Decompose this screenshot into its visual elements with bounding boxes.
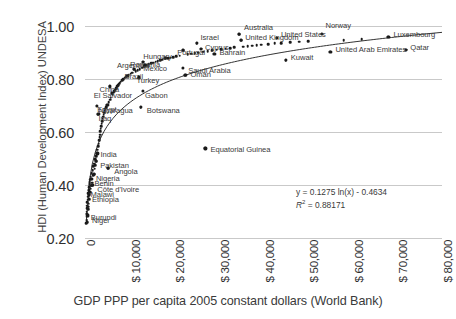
country-label: Israel — [201, 34, 219, 42]
country-label: Kuwait — [291, 54, 314, 62]
country-label: Mexico — [143, 65, 167, 73]
y-tick-1.00: 1.00 — [32, 19, 74, 35]
plot-area: NorwayUnited StatesAustraliaUnited Kingd… — [85, 26, 442, 238]
r-value: = 0.88171 — [308, 200, 346, 210]
x-tick-60000: $ 60,000 — [353, 240, 365, 282]
country-label: Qatar — [410, 44, 429, 52]
trendline-equation: y = 0.1275 ln(x) - 0.4634 R2 = 0.88171 — [296, 187, 387, 211]
country-label: Ethiopia — [92, 196, 119, 204]
equation-line: y = 0.1275 ln(x) - 0.4634 — [296, 187, 387, 198]
country-label: India — [100, 151, 116, 159]
country-label: Australia — [244, 24, 273, 32]
country-label: United Arab Emirates — [335, 46, 406, 54]
x-tick-40000: $ 40,000 — [264, 240, 276, 282]
country-label: Niger — [92, 217, 110, 225]
y-axis-ticks: 1.00 0.80 0.60 0.40 0.20 — [26, 0, 74, 319]
y-tick-0.20: 0.20 — [32, 231, 74, 247]
x-tick-10000: $ 10,000 — [130, 240, 142, 282]
x-axis-ticks: 0 $ 10,000 $ 20,000 $ 30,000 $ 40,000 $ … — [85, 240, 442, 302]
country-label: Iraq — [98, 115, 111, 123]
y-tick-0.40: 0.40 — [32, 178, 74, 194]
country-label: Nicaragua — [99, 107, 133, 115]
y-tick-0.80: 0.80 — [32, 72, 74, 88]
country-label: United Kingdom — [245, 34, 298, 42]
country-label: Luxembourg — [393, 31, 435, 39]
y-tick-0.60: 0.60 — [32, 125, 74, 141]
x-axis-title: GDP PPP per capita 2005 constant dollars… — [0, 294, 456, 308]
x-tick-50000: $ 50,000 — [308, 240, 320, 282]
x-tick-80000: $ 80,000 — [442, 240, 454, 282]
country-label: Gabon — [145, 92, 168, 100]
country-label: Turkey — [137, 77, 160, 85]
scatter-chart: HDI (Human Development Index) UNDESA 1.0… — [0, 0, 456, 319]
x-tick-30000: $ 30,000 — [219, 240, 231, 282]
gridline-0.20 — [85, 238, 442, 239]
country-label: El Salvador — [94, 92, 132, 100]
country-label: Norway — [326, 22, 351, 30]
r-exponent: 2 — [302, 199, 305, 205]
x-tick-70000: $ 70,000 — [397, 240, 409, 282]
country-label: Portugal — [177, 49, 205, 57]
x-tick-20000: $ 20,000 — [174, 240, 186, 282]
country-label: Bahrain — [219, 49, 245, 57]
country-label: Equatorial Guinea — [210, 146, 270, 154]
country-label: Botswana — [147, 107, 180, 115]
country-label: Oman — [190, 71, 210, 79]
trendline — [85, 26, 442, 238]
x-tick-0: 0 — [85, 240, 97, 246]
r-squared-line: R2 = 0.88171 — [296, 198, 387, 211]
